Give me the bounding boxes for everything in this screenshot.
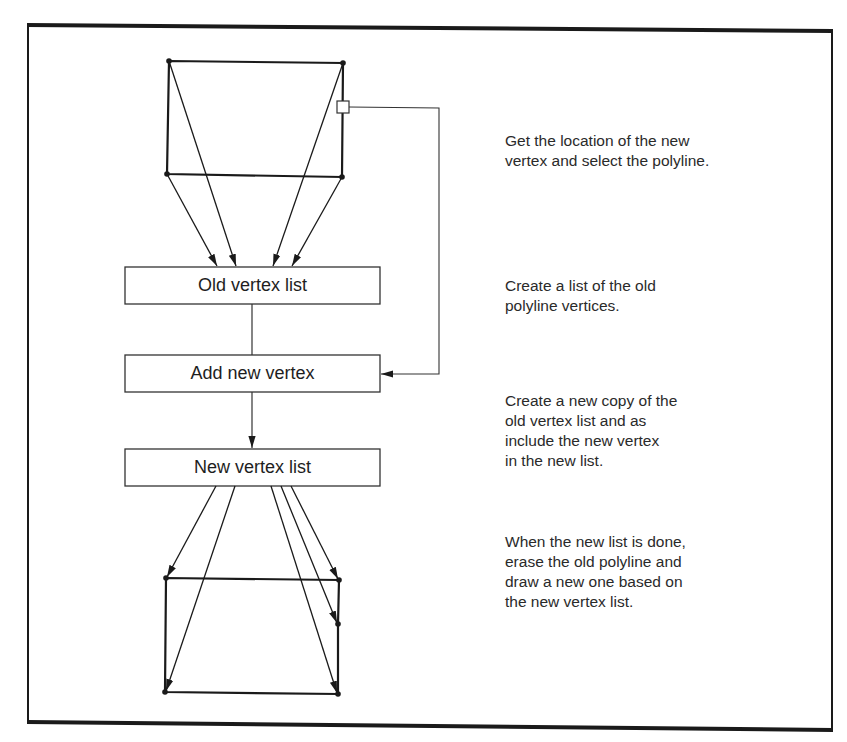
step-description-old-list: Create a list of the old polyline vertic… — [505, 276, 656, 316]
selection-marker — [337, 101, 349, 113]
box-label-old-vertex-list: Old vertex list — [125, 267, 380, 304]
selection-connector — [349, 107, 439, 374]
old-polyline — [164, 58, 349, 180]
vertex-point — [162, 689, 168, 695]
new-polyline — [162, 575, 342, 697]
vertex-point — [163, 575, 169, 581]
box-label-add-new-vertex: Add new vertex — [125, 355, 380, 392]
step-description-add-vertex: Create a new copy of the old vertex list… — [505, 391, 677, 471]
new-vertex-arrows — [166, 486, 338, 693]
vertex-point — [336, 577, 342, 583]
old-vertex-arrows — [167, 61, 343, 266]
step-description-redraw: When the new list is done, erase the old… — [505, 532, 686, 612]
step-description-select: Get the location of the new vertex and s… — [505, 131, 709, 171]
new-vertex-point — [335, 621, 341, 627]
box-label-new-vertex-list: New vertex list — [125, 449, 380, 486]
vertex-point — [335, 691, 341, 697]
